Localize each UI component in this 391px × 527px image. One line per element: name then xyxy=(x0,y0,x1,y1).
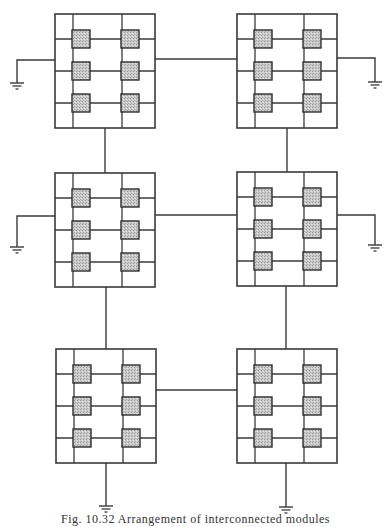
chip-pad xyxy=(303,365,321,383)
chip-pad xyxy=(254,94,272,112)
chip-pad xyxy=(121,189,139,207)
module-bottom-left xyxy=(56,349,156,463)
chip-pad xyxy=(303,252,321,270)
chip-pad xyxy=(121,253,139,271)
ground-symbol-icon xyxy=(10,83,24,89)
ground-bottom-left xyxy=(99,463,113,512)
chip-pad xyxy=(303,397,321,415)
chip-pad xyxy=(72,30,90,48)
chip-pad xyxy=(72,62,90,80)
chip-pad xyxy=(72,221,90,239)
figure-caption: Fig. 10.32 Arrangement of interconnected… xyxy=(0,512,391,527)
module-middle-right xyxy=(237,172,337,286)
chip-pad xyxy=(121,62,139,80)
chip-pad xyxy=(254,30,272,48)
chip-pad xyxy=(303,62,321,80)
module-middle-left xyxy=(55,173,155,287)
modules xyxy=(55,14,337,463)
ground-symbol-icon xyxy=(10,247,24,253)
chip-pad xyxy=(121,221,139,239)
module-top-left xyxy=(55,14,155,128)
chip-pad xyxy=(121,94,139,112)
ground-symbol-icon xyxy=(368,245,382,251)
chip-pad xyxy=(254,252,272,270)
module-bottom-right xyxy=(237,349,337,463)
chip-pad xyxy=(254,62,272,80)
chip-pad xyxy=(72,94,90,112)
ground-top-right xyxy=(336,58,382,88)
chip-pad xyxy=(254,429,272,447)
chip-pad xyxy=(254,397,272,415)
chip-pad xyxy=(72,189,90,207)
chip-pad xyxy=(303,220,321,238)
ground-top-left xyxy=(10,60,55,89)
chip-pad xyxy=(122,397,140,415)
chip-pad xyxy=(254,188,272,206)
chip-pad xyxy=(122,365,140,383)
ground-symbol-icon xyxy=(368,82,382,88)
chip-pad xyxy=(254,365,272,383)
ground-middle-right xyxy=(336,215,382,251)
chip-pad xyxy=(303,94,321,112)
chip-pad xyxy=(254,220,272,238)
ground-bottom-right xyxy=(279,463,293,513)
module-top-right xyxy=(237,14,337,128)
chip-pad xyxy=(73,397,91,415)
chip-pad xyxy=(122,429,140,447)
chip-pad xyxy=(73,429,91,447)
chip-pad xyxy=(73,365,91,383)
chip-pad xyxy=(303,30,321,48)
chip-pad xyxy=(303,429,321,447)
ground-middle-left xyxy=(10,216,55,253)
chip-pad xyxy=(72,253,90,271)
chip-pad xyxy=(303,188,321,206)
chip-pad xyxy=(121,30,139,48)
